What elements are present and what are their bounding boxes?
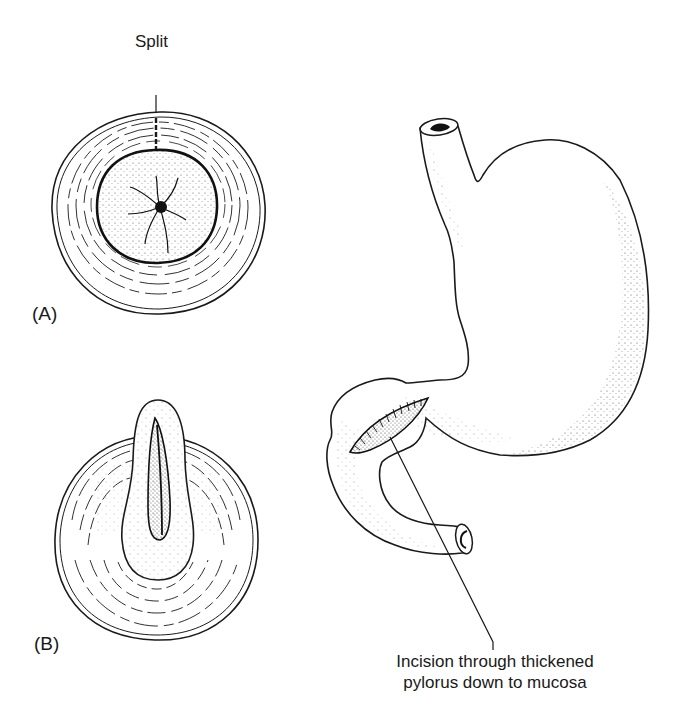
- stomach-illustration: [327, 116, 649, 650]
- stomach-outline: [327, 120, 649, 554]
- incision-caption-line1: Incision through thickened: [370, 651, 620, 672]
- pyloromyotomy-diagram: [0, 0, 683, 723]
- panel-a-cross-section: [52, 95, 265, 314]
- split-annotation: Split: [135, 32, 168, 52]
- panel-b-label: (B): [34, 633, 59, 655]
- panel-b-cross-section: [55, 400, 258, 640]
- panel-a-label: (A): [32, 303, 57, 325]
- incision-caption-line2: pylorus down to mucosa: [370, 672, 620, 693]
- incision-caption: Incision through thickened pylorus down …: [370, 651, 620, 693]
